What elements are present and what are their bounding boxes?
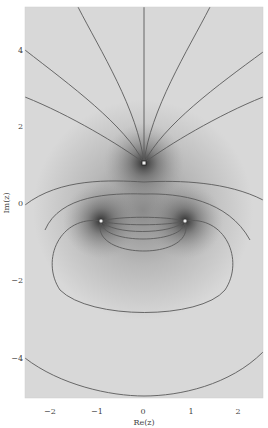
y-tick-label: −2 xyxy=(11,276,23,285)
pole-marker-left xyxy=(99,219,103,223)
x-tick-label: −1 xyxy=(91,407,103,416)
y-tick-label: −4 xyxy=(11,354,23,363)
x-tick-label: 2 xyxy=(235,407,240,416)
y-tick-label: 2 xyxy=(18,122,23,131)
y-tick-label: 4 xyxy=(18,46,23,55)
y-axis: 4 2 0 −2 −4 Im(z) xyxy=(2,46,23,363)
complex-plane-plot: −2 −1 0 1 2 Re(z) 4 2 0 −2 −4 Im(z) xyxy=(0,0,268,428)
x-tick-label: 0 xyxy=(140,407,145,416)
x-axis-label: Re(z) xyxy=(133,418,154,427)
pole-marker-right xyxy=(183,219,187,223)
y-tick-label: 0 xyxy=(18,199,23,208)
plot-area xyxy=(25,7,263,398)
x-axis: −2 −1 0 1 2 Re(z) xyxy=(44,407,240,427)
pole-marker-top xyxy=(142,161,146,165)
y-axis-label: Im(z) xyxy=(2,192,11,213)
x-tick-label: 1 xyxy=(188,407,193,416)
x-tick-label: −2 xyxy=(44,407,56,416)
